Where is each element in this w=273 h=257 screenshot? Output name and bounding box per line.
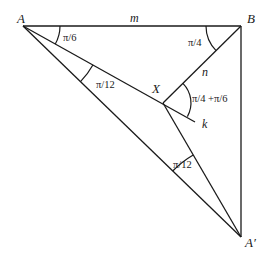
angle-arc-A-pi6 — [55, 26, 60, 44]
segment-label-k: k — [202, 118, 207, 130]
angle-arc-A-pi12 — [81, 65, 93, 82]
angle-label-A-pi12: π/12 — [96, 80, 115, 91]
angle-label-A-prime-pi12: π/12 — [173, 160, 192, 171]
point-label-A-prime: A′ — [245, 236, 256, 249]
point-label-B: B — [247, 12, 255, 25]
diagram-canvas — [0, 0, 273, 257]
angle-label-A-pi6: π/6 — [63, 33, 76, 44]
angle-label-X: π/4 +π/6 — [192, 94, 227, 105]
geometry-diagram: A B X A′ m n k π/6 π/12 π/4 π/4 +π/6 π/1… — [0, 0, 273, 257]
angle-label-B-pi4: π/4 — [188, 38, 201, 49]
angle-arc-B-pi4 — [206, 26, 216, 51]
angle-arc-X — [183, 83, 191, 116]
segment-Ak — [23, 26, 195, 122]
point-label-X: X — [152, 82, 160, 95]
segment-label-m: m — [130, 12, 139, 24]
point-label-A: A — [17, 12, 25, 25]
segment-label-n: n — [202, 66, 208, 78]
